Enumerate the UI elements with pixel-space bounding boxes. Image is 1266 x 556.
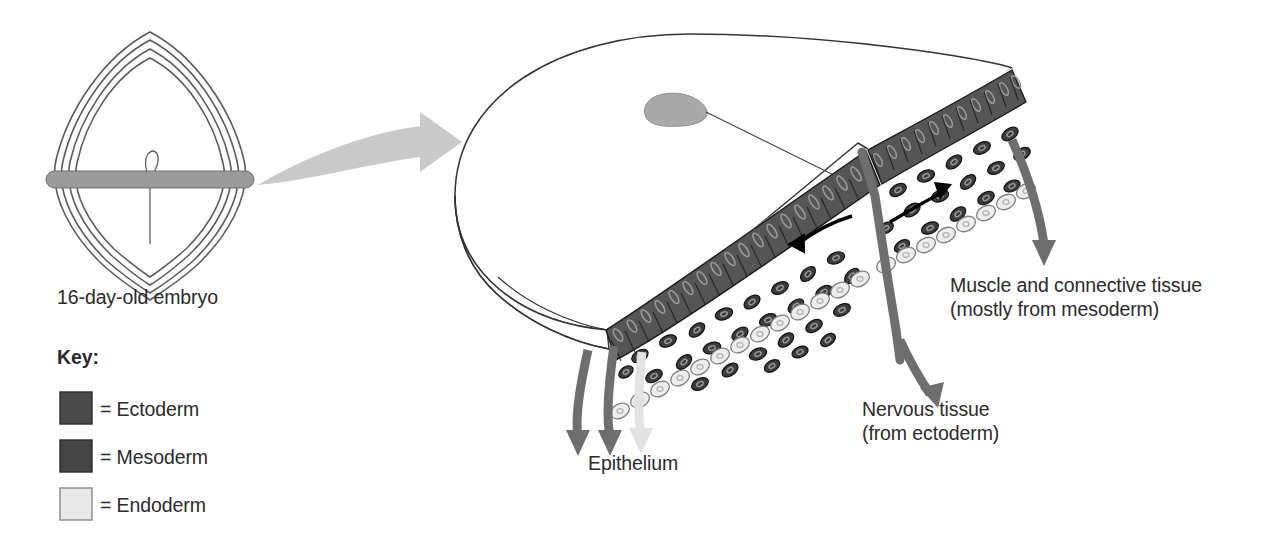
- key-swatch-ectoderm: [60, 392, 92, 424]
- callout-arrow-epithelium-1: [566, 350, 590, 456]
- embryo-outline-group: [55, 32, 246, 300]
- section-plane-band: [46, 171, 254, 188]
- figure-canvas: [0, 0, 1266, 556]
- callout-arrow-nervous-tissue: [900, 340, 944, 408]
- embryo-outline-1: [55, 32, 246, 300]
- key-swatch-endoderm: [60, 488, 92, 520]
- callout-arrow-epithelium-2: [598, 346, 622, 456]
- callout-arrow-muscle-connective: [1012, 140, 1056, 266]
- key-swatches: [60, 392, 92, 520]
- key-swatch-mesoderm: [60, 440, 92, 472]
- germ-layer-figure: 16-day-old embryo Key: = Ectoderm = Meso…: [0, 0, 1266, 556]
- magnify-arrow: [258, 112, 462, 185]
- embryo-outline-4: [76, 58, 225, 277]
- embryo-outline-3: [69, 49, 232, 285]
- embryonic-disc-3d: [455, 34, 1012, 349]
- embryo-outline-2: [61, 40, 238, 293]
